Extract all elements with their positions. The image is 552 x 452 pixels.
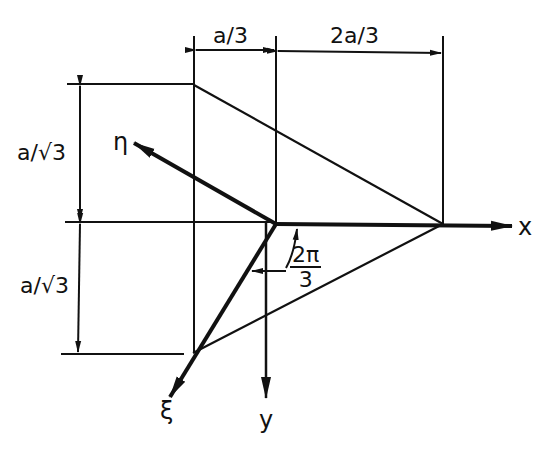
triangle: [193, 85, 443, 353]
dimension-label-a-over-root3-upper: a/√3: [17, 142, 66, 164]
xi-axis: [170, 224, 276, 397]
axis-label-x: x: [518, 215, 532, 239]
axis-label-xi: ξ: [160, 399, 173, 423]
extension-lines: [61, 36, 443, 354]
dimension-label-a-over-root3-lower: a/√3: [20, 275, 69, 297]
x-axis: [276, 224, 512, 226]
triangle-diagram: [0, 0, 552, 452]
dimension-line-top: [196, 50, 441, 53]
axis-label-eta: η: [113, 130, 128, 154]
dimension-label-a-over-3: a/3: [213, 25, 248, 47]
dimension-line-left: [78, 86, 80, 352]
angle-label: 2π 3: [290, 243, 321, 292]
eta-axis: [134, 143, 276, 224]
angle-numerator: 2π: [290, 243, 321, 268]
angle-denominator: 3: [290, 268, 321, 292]
dimension-label-2a-over-3: 2a/3: [330, 25, 379, 47]
axis-label-y: y: [259, 408, 273, 432]
